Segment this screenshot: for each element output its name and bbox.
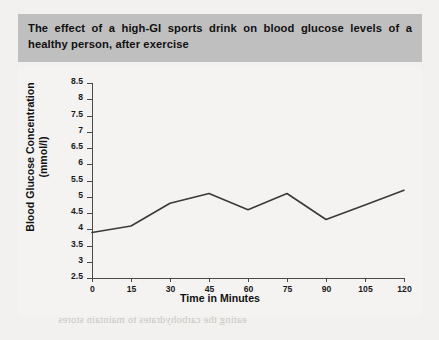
x-tick: 105 (365, 278, 366, 282)
plot-frame: Blood Glucose Concentration (mmol/l) Tim… (18, 66, 422, 316)
plot-area: 8.587.576.565.554.543.532.5 015304560759… (92, 83, 404, 278)
y-tick-label: 5 (78, 190, 83, 200)
y-tick-label: 3.5 (71, 239, 83, 249)
x-tick: 15 (131, 278, 132, 282)
x-tick: 120 (404, 278, 405, 282)
x-tick-label: 120 (397, 284, 411, 294)
x-tick: 0 (92, 278, 93, 282)
y-axis-title-line2: (mmol/l) (37, 52, 50, 262)
x-tick: 45 (209, 278, 210, 282)
y-tick-label: 7.5 (71, 109, 83, 119)
y-axis-title-line1: Blood Glucose Concentration (24, 82, 36, 232)
y-tick-label: 7 (78, 125, 83, 135)
x-tick: 30 (170, 278, 171, 282)
chart-title-band: The effect of a high-GI sports drink on … (18, 14, 422, 62)
y-axis-title: Blood Glucose Concentration (mmol/l) (24, 52, 50, 262)
y-tick-label: 6 (78, 157, 83, 167)
x-tick-label: 0 (90, 284, 95, 294)
y-tick-label: 2.5 (71, 271, 83, 281)
x-tick-label: 30 (166, 284, 176, 294)
figure-chart: The effect of a high-GI sports drink on … (0, 0, 439, 340)
x-tick: 75 (287, 278, 288, 282)
y-tick-label: 8 (78, 92, 83, 102)
y-tick-label: 4.5 (71, 206, 83, 216)
x-tick-label: 105 (358, 284, 372, 294)
y-tick-label: 8.5 (71, 76, 83, 86)
y-tick-label: 3 (78, 255, 83, 265)
y-tick-label: 5.5 (71, 174, 83, 184)
x-tick: 60 (248, 278, 249, 282)
x-tick-label: 75 (283, 284, 293, 294)
y-tick-label: 6.5 (71, 141, 83, 151)
chart-title: The effect of a high-GI sports drink on … (28, 21, 412, 52)
x-tick-label: 90 (322, 284, 332, 294)
data-series-line (92, 83, 404, 278)
y-tick-label: 4 (78, 222, 83, 232)
x-tick-label: 60 (244, 284, 254, 294)
x-tick: 90 (326, 278, 327, 282)
x-tick-label: 45 (205, 284, 215, 294)
x-tick-label: 15 (127, 284, 137, 294)
